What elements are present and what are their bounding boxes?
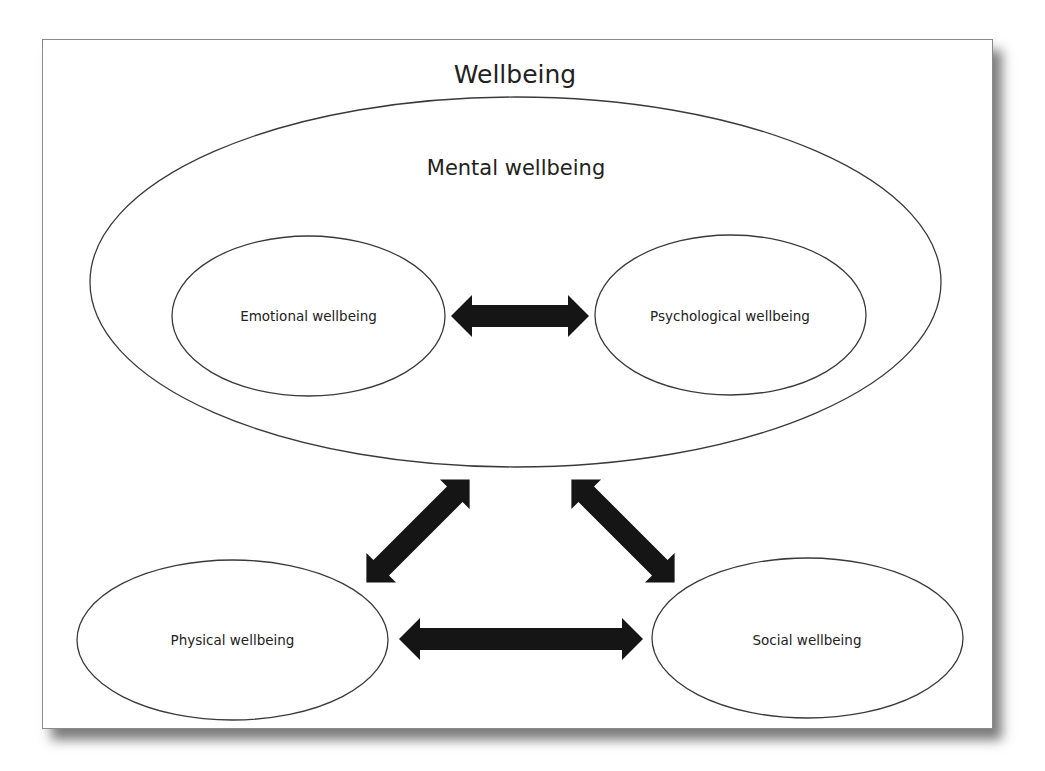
mental-wellbeing-node: Mental wellbeing	[90, 97, 941, 467]
double-arrow-physical-social-icon	[399, 618, 643, 660]
psychological-wellbeing-label: Psychological wellbeing	[650, 308, 810, 324]
emotional-wellbeing-node: Emotional wellbeing	[172, 236, 445, 396]
double-arrow-mental-physical-icon	[352, 465, 485, 598]
double-arrow-mental-social-icon	[557, 465, 690, 598]
emotional-wellbeing-label: Emotional wellbeing	[240, 308, 377, 324]
physical-wellbeing-label: Physical wellbeing	[171, 632, 295, 648]
diagram-title: Wellbeing	[454, 60, 576, 89]
social-wellbeing-node: Social wellbeing	[652, 558, 963, 718]
mental-wellbeing-label: Mental wellbeing	[427, 156, 605, 180]
double-arrow-emotional-psychological-icon	[451, 295, 589, 337]
mental-wellbeing-ellipse	[90, 97, 941, 467]
psychological-wellbeing-node: Psychological wellbeing	[595, 235, 866, 395]
social-wellbeing-label: Social wellbeing	[753, 632, 862, 648]
physical-wellbeing-node: Physical wellbeing	[77, 560, 388, 720]
wellbeing-diagram: Wellbeing Mental wellbeing Emotional wel…	[0, 0, 1045, 771]
